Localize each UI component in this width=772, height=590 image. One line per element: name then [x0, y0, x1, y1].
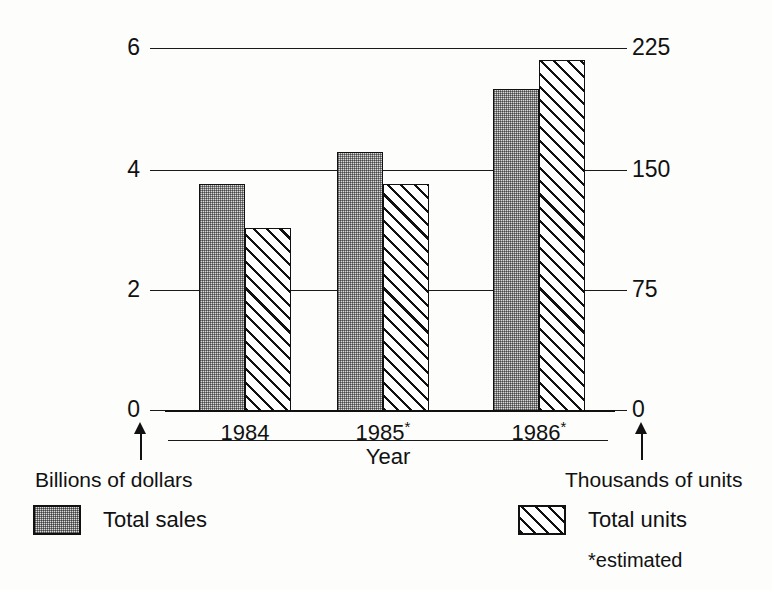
tick-stub-right-150	[607, 170, 627, 171]
y-axis-right-label-75: 75	[632, 278, 702, 301]
bar-units-1985	[383, 184, 429, 412]
x-axis-title: Year	[328, 444, 448, 470]
y-axis-left-label-2: 2	[100, 278, 140, 301]
bar-sales-1985	[337, 152, 383, 412]
x-axis-label-1986-star: *	[561, 418, 567, 435]
y-axis-right-label-225: 225	[632, 36, 702, 59]
legend-label-units: Total units	[588, 507, 687, 533]
y-axis-right-label-150: 150	[632, 158, 702, 181]
chart-canvas: 6 4 2 0 225 150 75 0 1984 1985* 1986* Ye…	[0, 0, 772, 590]
y-axis-left-label-4: 4	[100, 158, 140, 181]
x-axis-label-1984: 1984	[185, 418, 305, 446]
x-axis-label-1985-text: 1985	[356, 420, 405, 445]
x-axis-baseline	[165, 410, 615, 412]
y-axis-left-label-0: 0	[100, 398, 140, 421]
footnote-estimated: *estimated	[588, 549, 683, 572]
legend-item-total-units: Total units	[518, 505, 687, 535]
legend-item-total-sales: Total sales	[33, 505, 207, 535]
bar-units-1986	[539, 60, 585, 412]
left-axis-unit-caption: Billions of dollars	[35, 468, 193, 492]
x-axis-label-1984-text: 1984	[221, 420, 270, 445]
x-axis-label-1985-star: *	[405, 418, 411, 435]
x-axis-label-1986-text: 1986	[512, 420, 561, 445]
gridline-6	[165, 48, 615, 49]
tick-stub-right-225	[607, 48, 627, 49]
x-axis-rule	[168, 440, 608, 441]
legend-swatch-units	[518, 505, 566, 535]
x-axis-label-1986: 1986*	[479, 418, 599, 446]
right-axis-unit-caption: Thousands of units	[565, 468, 742, 492]
y-axis-left-label-6: 6	[100, 36, 140, 59]
x-axis-label-1985: 1985*	[323, 418, 443, 446]
legend-swatch-sales	[33, 505, 81, 535]
bar-sales-1984	[199, 184, 245, 412]
tick-stub-right-75	[607, 290, 627, 291]
tick-stub-left-4	[150, 170, 168, 171]
bar-units-1984	[245, 228, 291, 412]
bar-sales-1986	[493, 89, 539, 412]
legend-label-sales: Total sales	[103, 507, 207, 533]
tick-stub-left-6	[150, 48, 168, 49]
y-axis-right-label-0: 0	[632, 398, 702, 421]
tick-stub-left-2	[150, 290, 168, 291]
